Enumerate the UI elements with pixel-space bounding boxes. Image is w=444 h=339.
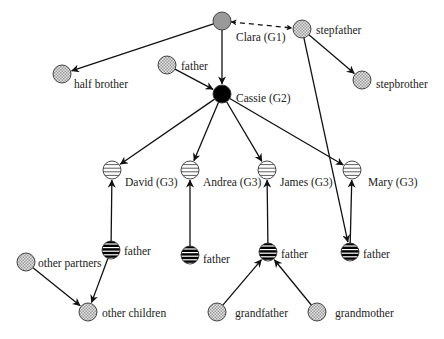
node-label: James (G3) <box>280 176 333 189</box>
node-cassie: Cassie (G2) <box>213 85 291 105</box>
node-label: father <box>281 248 308 260</box>
node-label: other children <box>102 307 166 319</box>
family-diagram: Clara (G1)stepfatherhalf brotherstepbrot… <box>0 0 444 339</box>
node-label: grandmother <box>335 307 394 320</box>
node-label: father <box>181 60 208 72</box>
node-david: David (G3) <box>103 161 178 189</box>
node-circle <box>53 65 71 83</box>
node-mary: Mary (G3) <box>343 161 418 189</box>
edge-other-partners-to-other-children <box>33 268 80 306</box>
node-other-partners: other partners <box>17 253 102 271</box>
node-label: other partners <box>38 257 102 270</box>
node-circle <box>353 71 371 89</box>
edge-father-cassie-to-cassie <box>175 69 213 89</box>
node-label: stepbrother <box>376 78 428 91</box>
edge-cassie-to-mary <box>230 99 344 165</box>
node-label: Andrea (G3) <box>203 176 262 189</box>
node-clara: Clara (G1) <box>213 12 286 44</box>
node-label: father <box>203 253 230 265</box>
edge-cassie-to-james <box>227 102 262 162</box>
node-circle <box>158 56 176 74</box>
node-father-james: father <box>259 243 308 261</box>
node-circle <box>308 303 326 321</box>
node-james: James (G3) <box>258 161 333 189</box>
node-label: stepfather <box>316 24 362 37</box>
edge-cassie-to-david <box>120 99 214 164</box>
node-father-mary: father <box>341 243 390 261</box>
edge-stepfather-to-father-mary <box>304 38 348 242</box>
node-circle <box>79 303 97 321</box>
node-label: father <box>363 248 390 260</box>
node-stepfather: stepfather <box>293 20 362 38</box>
node-other-children: other children <box>79 303 166 321</box>
node-label: Clara (G1) <box>236 31 286 44</box>
node-andrea: Andrea (G3) <box>181 161 262 189</box>
edge-grandfather-to-father-james <box>223 260 262 306</box>
edge-father-mary-to-mary <box>350 180 352 243</box>
node-label: half brother <box>74 78 128 90</box>
node-circle <box>213 85 231 103</box>
edge-stepfather-to-stepbrother <box>309 35 355 74</box>
node-label: Cassie (G2) <box>236 92 291 105</box>
node-stepbrother: stepbrother <box>353 71 428 91</box>
node-label: grandfather <box>235 307 288 320</box>
node-father-cassie: father <box>158 56 208 74</box>
node-circle <box>208 303 226 321</box>
edge-father-david-to-david <box>111 180 112 241</box>
edge-father-james-to-james <box>267 180 268 243</box>
node-label: Mary (G3) <box>368 176 418 189</box>
node-father-andrea: father <box>181 246 230 265</box>
node-grandmother: grandmother <box>308 303 394 321</box>
node-label: David (G3) <box>125 176 178 189</box>
node-father-david: father <box>102 241 151 259</box>
node-label: father <box>124 245 151 257</box>
node-half-brother: half brother <box>53 65 128 90</box>
edge-grandmother-to-father-james <box>274 260 311 305</box>
edge-clara-to-stepfather <box>231 22 292 28</box>
node-circle <box>17 253 35 271</box>
node-grandfather: grandfather <box>208 303 288 321</box>
node-circle <box>293 20 311 38</box>
node-circle <box>213 12 231 30</box>
